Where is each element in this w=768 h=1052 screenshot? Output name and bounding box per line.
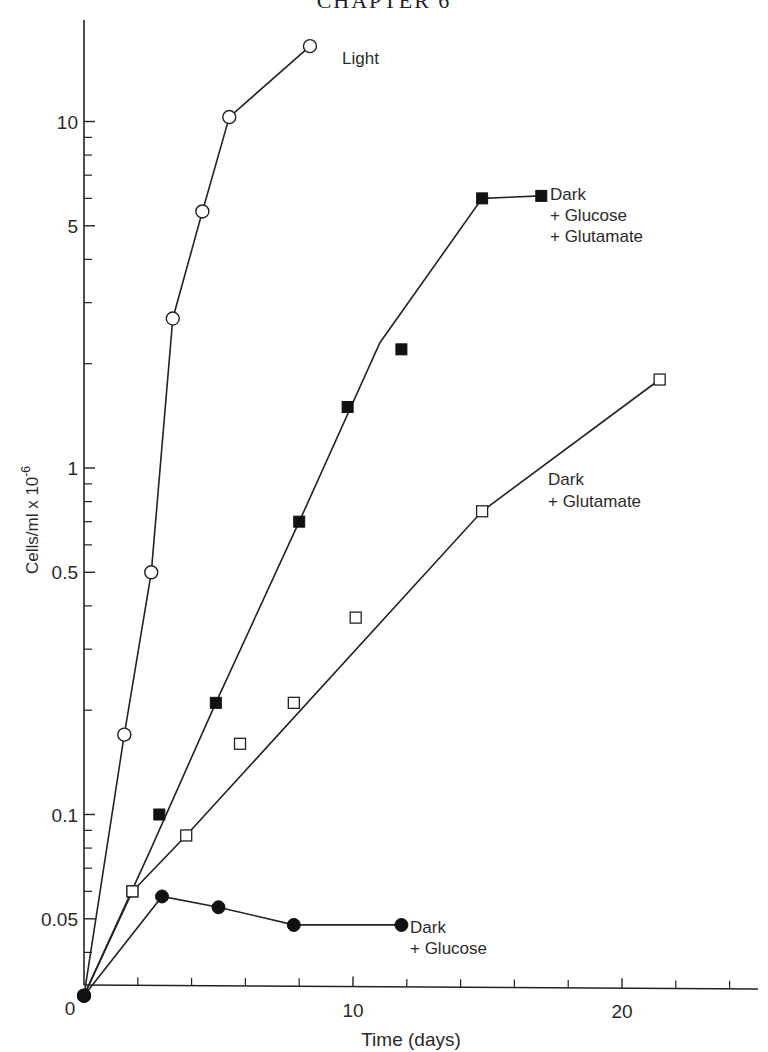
y-tick-label: 10 bbox=[57, 112, 78, 133]
filled-square-marker bbox=[477, 193, 488, 204]
filled-square-marker bbox=[294, 516, 305, 527]
open-square-marker bbox=[477, 506, 488, 517]
filled-circle-marker bbox=[395, 918, 408, 931]
y-tick-label: 5 bbox=[67, 216, 78, 237]
y-axis-title-exponent: -6 bbox=[19, 466, 33, 477]
series-label-dark-glutamate: Dark+ Glutamate bbox=[548, 470, 641, 511]
open-circle-marker bbox=[145, 566, 158, 579]
filled-square-marker bbox=[396, 344, 407, 355]
series-label-dark-glucose-glutamate: Dark+ Glucose+ Glutamate bbox=[550, 185, 643, 246]
x-axis-line bbox=[84, 985, 758, 989]
open-circle-marker bbox=[166, 312, 179, 325]
open-circle-marker bbox=[196, 205, 209, 218]
series-label-line: + Glucose bbox=[550, 206, 627, 225]
series-line-light bbox=[84, 46, 310, 996]
x-tick-label: 20 bbox=[611, 1001, 632, 1022]
x-tick-label: 0 bbox=[65, 998, 76, 1019]
open-square-marker bbox=[288, 697, 299, 708]
filled-circle-marker bbox=[156, 890, 169, 903]
axes: 10510.50.10.0501020 bbox=[41, 20, 758, 1022]
series-label-line: Dark bbox=[410, 918, 446, 937]
filled-square-marker bbox=[342, 401, 353, 412]
svg-text:Cells/ml x 10-6: Cells/ml x 10-6 bbox=[19, 466, 42, 574]
filled-square-marker bbox=[210, 697, 221, 708]
open-square-marker bbox=[127, 886, 138, 897]
y-axis-title: Cells/ml x 10-6 bbox=[19, 466, 42, 574]
series-label-line: Light bbox=[342, 49, 379, 68]
series-label-dark-glucose: Dark+ Glucose bbox=[410, 918, 487, 958]
open-circle-marker bbox=[118, 728, 131, 741]
series-line-dark-glucose bbox=[84, 897, 401, 996]
series-label-line: Dark bbox=[548, 470, 584, 489]
filled-square-marker bbox=[154, 809, 165, 820]
y-tick-label: 0.1 bbox=[52, 805, 78, 826]
series-label-line: + Glucose bbox=[410, 939, 487, 958]
open-square-marker bbox=[235, 738, 246, 749]
y-tick-label: 0.5 bbox=[52, 562, 78, 583]
series-line-dark-glucose-glutamate bbox=[84, 196, 541, 996]
open-square-marker bbox=[350, 612, 361, 623]
filled-circle-marker bbox=[212, 901, 225, 914]
filled-square-marker bbox=[536, 190, 547, 201]
filled-circle-marker bbox=[287, 918, 300, 931]
growth-curve-plot: 10510.50.10.0501020 LightDark+ Glucose+ … bbox=[0, 0, 768, 1052]
open-circle-marker bbox=[223, 111, 236, 124]
y-axis-title-text: Cells/ml x 10 bbox=[23, 477, 42, 574]
running-head: CHAPTER 6 bbox=[0, 0, 768, 14]
origin-filled-circle-marker bbox=[77, 989, 91, 1003]
series-label-line: Dark bbox=[550, 185, 586, 204]
open-square-marker bbox=[181, 830, 192, 841]
series-label-line: + Glutamate bbox=[550, 227, 643, 246]
open-circle-marker bbox=[303, 40, 316, 53]
series-label-line: + Glutamate bbox=[548, 492, 641, 511]
open-square-marker bbox=[654, 374, 665, 385]
chart-figure: CHAPTER 6 10510.50.10.0501020 LightDark+… bbox=[0, 0, 768, 1052]
x-tick-label: 10 bbox=[342, 1000, 363, 1021]
x-axis-title: Time (days) bbox=[361, 1029, 461, 1050]
y-tick-label: 0.05 bbox=[41, 909, 78, 930]
y-tick-label: 1 bbox=[67, 458, 78, 479]
series-label-light: Light bbox=[342, 49, 379, 68]
